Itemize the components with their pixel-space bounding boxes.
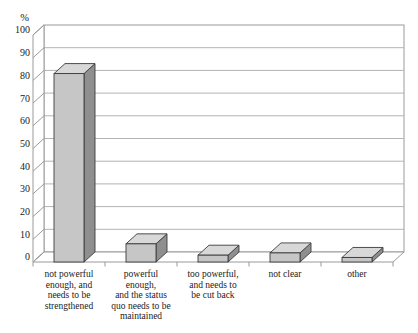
y-tick-label: 70 — [20, 93, 30, 104]
bar-front-face — [54, 74, 84, 262]
bar-side-face — [84, 64, 95, 262]
category-label: other — [347, 269, 367, 279]
y-axis-unit-label: % — [20, 12, 29, 23]
y-tick-label: 10 — [20, 229, 30, 240]
bar-front-face — [342, 257, 372, 262]
y-tick-label: 30 — [20, 183, 30, 194]
y-tick-label: 50 — [20, 138, 30, 149]
category-label: not powerfulenough, andneeds to bestreng… — [45, 269, 94, 311]
category-label: powerfulenough,and the statusquo needs t… — [111, 269, 170, 321]
y-tick-label: 60 — [20, 115, 30, 126]
category-label: too powerful,and needs tobe cut back — [187, 269, 238, 300]
y-tick-label: 0 — [25, 251, 30, 262]
y-tick-label: 100 — [15, 24, 30, 35]
bar-front-face — [270, 253, 300, 262]
y-tick-label: 40 — [20, 161, 30, 172]
survey-bar-chart-figure: 1009080706050403020100%not powerfulenoug… — [0, 0, 418, 333]
category-label: not clear — [269, 269, 303, 279]
bar-chart-canvas: 1009080706050403020100%not powerfulenoug… — [0, 0, 418, 333]
y-tick-label: 80 — [20, 70, 30, 81]
y-tick-label: 90 — [20, 47, 30, 58]
y-tick-label: 20 — [20, 206, 30, 217]
bar-front-face — [198, 255, 228, 262]
bar-front-face — [126, 244, 156, 262]
